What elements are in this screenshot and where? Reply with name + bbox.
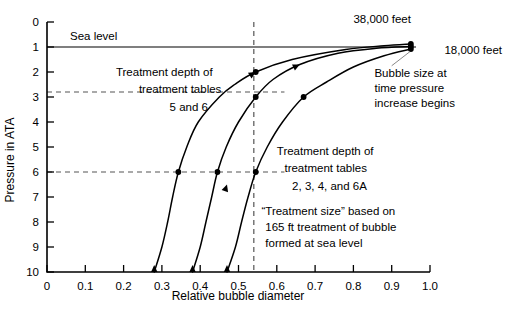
chart-annotation: treatment tables [139, 83, 222, 95]
y-tick-label: 5 [33, 141, 39, 153]
chart-annotation: formed at sea level [265, 237, 362, 249]
x-tick-label: 1.0 [422, 280, 438, 292]
chart-annotation: 38,000 feet [353, 13, 411, 25]
data-point-marker [175, 169, 181, 175]
chart-annotation: 2, 3, 4, and 6A [292, 180, 367, 192]
chart-root: 01234567891000.10.20.30.40.50.60.70.80.9… [0, 0, 505, 315]
chart-annotation: increase begins [374, 97, 455, 109]
y-tick-label: 8 [33, 216, 39, 228]
y-axis-title: Pressure in ATA [3, 118, 17, 203]
data-point-marker [215, 169, 221, 175]
y-tick-label: 1 [33, 41, 39, 53]
data-point-marker [408, 46, 414, 52]
pressure-vs-bubble-diameter-chart: 01234567891000.10.20.30.40.50.60.70.80.9… [0, 0, 505, 315]
x-tick-label: 0.9 [384, 280, 400, 292]
y-tick-label: 9 [33, 241, 39, 253]
y-tick-label: 7 [33, 191, 39, 203]
y-tick-label: 3 [33, 91, 39, 103]
chart-annotation: treatment tables [284, 162, 367, 174]
data-point-marker [253, 169, 259, 175]
chart-annotation: “Treatment size” based on [261, 205, 395, 217]
data-point-marker [253, 94, 259, 100]
chart-annotation: Treatment depth of [116, 66, 214, 78]
x-axis-title: Relative bubble diameter [172, 289, 305, 303]
chart-annotation: Bubble size at [374, 67, 447, 79]
x-tick-label: 0.1 [77, 280, 93, 292]
chart-annotation: Treatment depth of [277, 145, 375, 157]
x-tick-label: 0.8 [345, 280, 361, 292]
x-tick-label: 0.3 [154, 280, 170, 292]
y-tick-label: 10 [26, 266, 39, 278]
chart-annotation: Sea level [70, 30, 117, 42]
chart-annotation: 18,000 feet [444, 44, 502, 56]
x-tick-label: 0 [44, 280, 50, 292]
chart-annotation: 5 and 6 [170, 101, 208, 113]
y-tick-label: 4 [33, 116, 40, 128]
chart-annotation: time pressure [374, 82, 444, 94]
y-tick-label: 6 [33, 166, 39, 178]
y-tick-label: 2 [33, 66, 39, 78]
data-point-marker [301, 94, 307, 100]
y-tick-label: 0 [33, 16, 39, 28]
chart-annotation: 165 ft treatment of bubble [265, 221, 396, 233]
x-tick-label: 0.7 [307, 280, 323, 292]
x-tick-label: 0.2 [116, 280, 132, 292]
